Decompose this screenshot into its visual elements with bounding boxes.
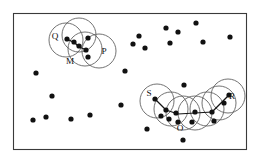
core-point [158,113,163,118]
core-point [85,54,90,59]
noise-point [200,39,205,44]
core-point [211,118,216,123]
diagram-frame [14,14,247,150]
noise-point [167,40,172,45]
noise-point [193,20,198,25]
core-point [64,36,69,41]
noise-point [30,117,35,122]
noise-point [181,82,186,87]
noise-point [180,137,185,142]
noise-point [118,102,123,107]
point-label-m: M [66,56,74,66]
point-label-o: O [177,123,184,133]
point-label-p: P [101,46,106,56]
core-point [163,107,168,112]
core-point [166,116,171,121]
noise-point [175,29,180,34]
noise-point [142,45,147,50]
core-point [221,100,226,105]
core-point [76,43,81,48]
core-point [192,109,197,114]
noise-point [130,41,135,46]
point-label-q: Q [52,31,59,41]
point-label-s: S [146,88,151,98]
noise-point [87,112,92,117]
figure-root: QMPSOR [0,0,258,162]
core-point [189,119,194,124]
noise-point [136,33,141,38]
point-label-r: R [229,91,236,101]
core-point [83,47,88,52]
core-point [173,110,178,115]
noise-point [49,93,54,98]
cluster-diagram-canvas: QMPSOR [0,0,258,162]
noise-point [43,114,48,119]
core-point [209,109,214,114]
core-point [85,35,90,40]
noise-point [122,68,127,73]
noise-point [33,70,38,75]
noise-point [144,126,149,131]
noise-point [227,34,232,39]
noise-point [68,116,73,121]
core-point [71,39,76,44]
noise-point [163,25,168,30]
core-point [152,96,157,101]
